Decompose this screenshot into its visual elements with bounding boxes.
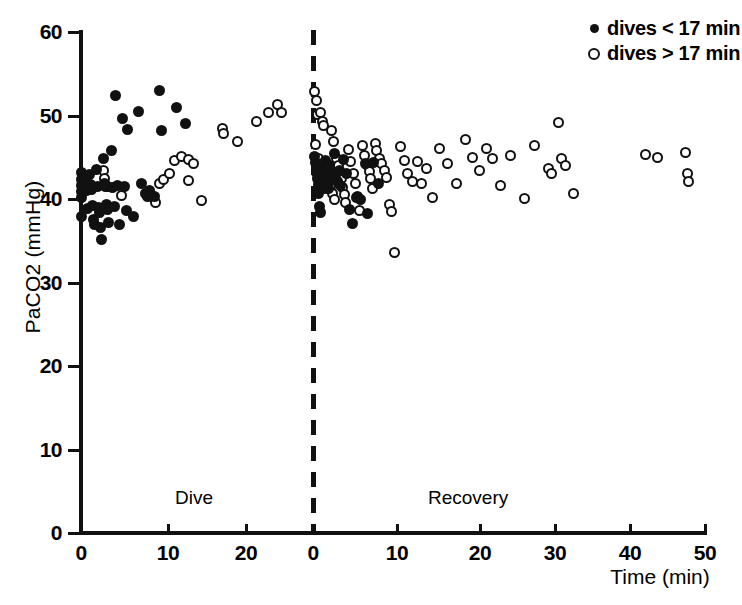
y-axis-line (79, 30, 83, 535)
data-point-long-dive (218, 128, 229, 139)
y-tick-mark (68, 115, 79, 118)
y-tick-label: 50 (40, 105, 62, 126)
data-point-long-dive (196, 195, 207, 206)
data-point-long-dive (421, 163, 432, 174)
data-point-long-dive (329, 194, 340, 205)
data-point-short-dive (117, 113, 128, 124)
data-point-short-dive (149, 191, 160, 202)
x-tick-mark (554, 524, 557, 535)
data-point-long-dive (276, 107, 287, 118)
data-point-short-dive (110, 90, 121, 101)
data-point-short-dive (338, 154, 349, 165)
data-point-short-dive (180, 118, 191, 129)
scatter-chart-figure: 0102030405060 0102001020304050 PaCO2 (mm… (0, 0, 742, 605)
x-tick-mark (312, 524, 315, 535)
y-tick-label: 60 (40, 21, 62, 42)
x-tick-mark (80, 524, 83, 535)
data-point-short-dive (106, 145, 117, 156)
data-point-long-dive (474, 165, 485, 176)
x-tick-label: 10 (138, 542, 198, 563)
x-tick-mark (479, 524, 482, 535)
data-point-short-dive (347, 218, 358, 229)
data-point-long-dive (183, 175, 194, 186)
data-point-short-dive (341, 168, 352, 179)
data-point-long-dive (416, 178, 427, 189)
y-tick-mark (68, 282, 79, 285)
data-point-long-dive (442, 158, 453, 169)
data-point-short-dive (103, 217, 114, 228)
data-point-long-dive (395, 141, 406, 152)
data-point-short-dive (128, 211, 139, 222)
x-tick-mark (704, 524, 707, 535)
data-point-long-dive (495, 180, 506, 191)
data-point-long-dive (460, 134, 471, 145)
data-point-long-dive (310, 139, 321, 150)
data-point-short-dive (114, 219, 125, 230)
data-point-long-dive (434, 143, 445, 154)
data-point-short-dive (315, 207, 326, 218)
data-point-short-dive (154, 85, 165, 96)
open-circle-icon (586, 48, 602, 60)
data-point-long-dive (529, 140, 540, 151)
legend-entry-long-dives: dives > 17 min (586, 41, 740, 66)
data-point-long-dive (560, 160, 571, 171)
data-point-long-dive (164, 168, 175, 179)
data-point-long-dive (427, 192, 438, 203)
data-point-long-dive (399, 155, 410, 166)
data-point-short-dive (96, 234, 107, 245)
data-point-short-dive (119, 181, 130, 192)
data-point-long-dive (487, 153, 498, 164)
y-tick-label: 0 (51, 522, 62, 543)
data-point-long-dive (350, 178, 361, 189)
x-tick-label: 30 (525, 542, 585, 563)
data-point-long-dive (680, 147, 691, 158)
data-point-long-dive (251, 116, 262, 127)
x-tick-label: 20 (450, 542, 510, 563)
data-point-long-dive (188, 158, 199, 169)
phase-label-dive: Dive (175, 487, 213, 509)
y-tick-mark (68, 449, 79, 452)
data-point-short-dive (156, 125, 167, 136)
x-tick-mark (245, 524, 248, 535)
chart-legend: dives < 17 min dives > 17 min (586, 16, 740, 66)
data-point-short-dive (373, 178, 384, 189)
filled-circle-icon (586, 24, 602, 33)
data-point-long-dive (328, 136, 339, 147)
data-point-long-dive (546, 168, 557, 179)
y-tick-mark (68, 532, 79, 535)
data-point-short-dive (355, 194, 366, 205)
data-point-short-dive (133, 106, 144, 117)
y-tick-mark (68, 365, 79, 368)
data-point-long-dive (386, 206, 397, 217)
x-tick-label: 10 (367, 542, 427, 563)
x-tick-mark (396, 524, 399, 535)
legend-entry-short-dives: dives < 17 min (586, 16, 740, 41)
data-point-long-dive (326, 125, 337, 136)
data-point-long-dive (389, 247, 400, 258)
legend-label-short-dives: dives < 17 min (607, 17, 740, 40)
data-point-short-dive (109, 201, 120, 212)
x-tick-label: 0 (51, 542, 111, 563)
data-point-long-dive (553, 117, 564, 128)
data-point-long-dive (652, 152, 663, 163)
x-tick-mark (167, 524, 170, 535)
x-tick-mark (629, 524, 632, 535)
data-point-long-dive (232, 136, 243, 147)
data-point-short-dive (122, 124, 133, 135)
data-point-long-dive (683, 176, 694, 187)
x-tick-label: 20 (216, 542, 276, 563)
x-tick-label: 40 (600, 542, 660, 563)
data-point-long-dive (481, 143, 492, 154)
data-point-long-dive (640, 149, 651, 160)
phase-label-recovery: Recovery (428, 487, 508, 509)
data-point-long-dive (451, 178, 462, 189)
data-point-long-dive (467, 152, 478, 163)
data-point-long-dive (311, 95, 322, 106)
x-axis-line (79, 531, 707, 535)
data-point-short-dive (344, 204, 355, 215)
y-axis-title: PaCO2 (mmHg) (21, 132, 45, 382)
y-tick-label: 10 (40, 439, 62, 460)
data-point-short-dive (368, 157, 379, 168)
data-point-long-dive (519, 193, 530, 204)
x-axis-title: Time (min) (590, 565, 730, 589)
